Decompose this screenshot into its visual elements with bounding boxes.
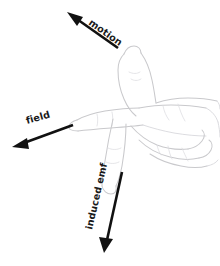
- diagram-canvas: motion field induced emf: [0, 0, 220, 266]
- induced-emf-arrow-line: [107, 172, 122, 240]
- wrist-shape: [217, 101, 220, 137]
- curled-fingers-shape: [131, 126, 218, 168]
- fleming-right-hand-rule-diagram: motion field induced emf: [0, 0, 220, 266]
- motion-label: motion: [87, 17, 125, 48]
- induced-emf-arrow-head: [99, 237, 113, 253]
- field-arrow-head: [12, 138, 29, 149]
- motion-arrow-head: [67, 12, 83, 26]
- middle-finger-shape: [102, 119, 126, 194]
- field-arrow-line: [21, 125, 73, 144]
- field-label: field: [25, 109, 52, 126]
- field-arrow: [12, 125, 73, 149]
- palm-shape: [139, 98, 218, 136]
- thumb-shape: [118, 46, 156, 116]
- induced-emf-label: induced emf: [83, 161, 109, 230]
- hand-illustration: [69, 46, 220, 194]
